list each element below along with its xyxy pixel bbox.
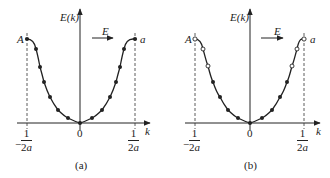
tick-denominator: 2a	[128, 141, 139, 153]
point-label-a: a	[310, 34, 316, 45]
tick-denominator: 2a	[297, 141, 308, 153]
panel-a	[17, 9, 150, 130]
point-label-a: a	[140, 34, 146, 45]
tick-denominator: 2a	[189, 141, 200, 153]
caption-b: (b)	[244, 159, 257, 171]
point-label-A: A	[185, 34, 192, 45]
tick-denominator: 2a	[21, 141, 32, 153]
left-tick-label: 1 2a	[21, 128, 32, 153]
origin-label: 0	[247, 128, 253, 139]
field-label: E	[102, 26, 109, 37]
tick-numerator: 1	[189, 128, 200, 141]
caption-a: (a)	[75, 159, 87, 171]
y-axis-label: E(k)	[230, 12, 249, 23]
y-axis-label: E(k)	[60, 12, 79, 23]
right-tick-label: 1 2a	[297, 128, 308, 153]
tick-numerator: 1	[297, 128, 308, 141]
electron-states	[25, 37, 137, 125]
field-label: E	[274, 26, 281, 37]
origin-label: 0	[77, 128, 83, 139]
tick-numerator: 1	[21, 128, 32, 141]
left-tick-label: 1 2a	[189, 128, 200, 153]
right-tick-label: 1 2a	[128, 128, 139, 153]
point-label-A: A	[17, 34, 24, 45]
x-axis-label: k	[145, 126, 150, 137]
panel-b	[185, 9, 320, 130]
x-axis-label: k	[316, 126, 321, 137]
tick-numerator: 1	[128, 128, 139, 141]
